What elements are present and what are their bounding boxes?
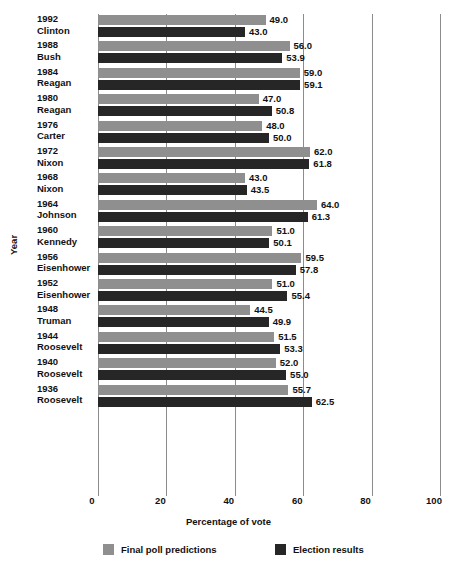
row-label-year: 1944 <box>37 330 95 342</box>
bar-election-result[interactable] <box>98 106 272 116</box>
x-axis-title: Percentage of vote <box>0 516 457 527</box>
bar-poll-prediction[interactable] <box>98 385 288 395</box>
y-axis-title: Year <box>8 235 19 255</box>
bar-election-result[interactable] <box>98 291 287 301</box>
row-label-candidate: Carter <box>37 130 95 142</box>
row-label-candidate: Johnson <box>37 209 95 221</box>
bar-poll-prediction[interactable] <box>98 173 245 183</box>
row-label-year: 1960 <box>37 224 95 236</box>
bar-row: 64.061.3 <box>98 199 440 225</box>
bar-poll-prediction[interactable] <box>98 147 310 157</box>
bar-election-result[interactable] <box>98 317 269 327</box>
bar-value-election-result: 43.5 <box>251 185 270 195</box>
legend-swatch-icon <box>103 544 114 555</box>
bar-row: 59.059.1 <box>98 67 440 93</box>
bar-election-result[interactable] <box>98 159 309 169</box>
bar-value-election-result: 53.9 <box>286 53 305 63</box>
bar-election-result[interactable] <box>98 27 245 37</box>
x-tick-mark-20 <box>166 489 167 496</box>
legend-label: Election results <box>293 544 364 555</box>
x-tick-label-80: 80 <box>360 495 371 506</box>
row-label-1956: 1956Eisenhower <box>37 251 95 274</box>
row-label-year: 1984 <box>37 66 95 78</box>
bar-poll-prediction[interactable] <box>98 253 301 263</box>
bar-election-result[interactable] <box>98 133 269 143</box>
row-label-candidate: Roosevelt <box>37 341 95 353</box>
bar-poll-prediction[interactable] <box>98 305 250 315</box>
bar-row: 51.553.3 <box>98 331 440 357</box>
legend-item-poll-predictions[interactable]: Final poll predictions <box>103 544 217 555</box>
bar-row: 48.050.0 <box>98 120 440 146</box>
bar-value-election-result: 49.9 <box>273 317 292 327</box>
bar-value-poll-prediction: 49.0 <box>270 15 289 25</box>
legend-item-election-results[interactable]: Election results <box>275 544 364 555</box>
row-label-1984: 1984Reagan <box>37 66 95 89</box>
row-label-year: 1956 <box>37 251 95 263</box>
bar-value-poll-prediction: 56.0 <box>294 41 313 51</box>
bar-poll-prediction[interactable] <box>98 226 272 236</box>
row-label-year: 1992 <box>37 13 95 25</box>
y-axis-category-labels: 1992Clinton1988Bush1984Reagan1980Reagan1… <box>37 14 95 489</box>
bar-row: 51.055.4 <box>98 278 440 304</box>
bar-election-result[interactable] <box>98 370 286 380</box>
x-tick-mark-0 <box>98 489 99 496</box>
bar-poll-prediction[interactable] <box>98 121 262 131</box>
bar-value-poll-prediction: 44.5 <box>254 305 273 315</box>
bar-value-poll-prediction: 59.0 <box>304 68 323 78</box>
bar-value-election-result: 55.4 <box>291 291 310 301</box>
bar-election-result[interactable] <box>98 80 300 90</box>
bar-election-result[interactable] <box>98 212 308 222</box>
bar-poll-prediction[interactable] <box>98 41 290 51</box>
row-label-1936: 1936Roosevelt <box>37 383 95 406</box>
row-label-1940: 1940Roosevelt <box>37 356 95 379</box>
bar-row: 62.061.8 <box>98 146 440 172</box>
row-label-candidate: Nixon <box>37 183 95 195</box>
bar-row: 43.043.5 <box>98 172 440 198</box>
bar-election-result[interactable] <box>98 397 312 407</box>
row-label-1948: 1948Truman <box>37 303 95 326</box>
bar-value-election-result: 43.0 <box>249 27 268 37</box>
bar-election-result[interactable] <box>98 344 280 354</box>
row-label-year: 1940 <box>37 356 95 368</box>
row-label-1980: 1980Reagan <box>37 92 95 115</box>
bar-poll-prediction[interactable] <box>98 94 259 104</box>
row-label-1968: 1968Nixon <box>37 171 95 194</box>
row-label-candidate: Reagan <box>37 104 95 116</box>
bar-value-poll-prediction: 64.0 <box>321 200 340 210</box>
x-tick-label-60: 60 <box>292 495 303 506</box>
bar-row: 55.762.5 <box>98 384 440 410</box>
bar-poll-prediction[interactable] <box>98 68 300 78</box>
bar-row: 44.549.9 <box>98 304 440 330</box>
bar-election-result[interactable] <box>98 185 247 195</box>
row-label-year: 1988 <box>37 39 95 51</box>
bar-rows: 49.043.056.053.959.059.147.050.848.050.0… <box>98 14 440 489</box>
bar-row: 52.055.0 <box>98 357 440 383</box>
row-label-year: 1936 <box>37 383 95 395</box>
bar-value-election-result: 61.8 <box>313 159 332 169</box>
bar-value-election-result: 59.1 <box>304 80 323 90</box>
bar-value-poll-prediction: 43.0 <box>249 173 268 183</box>
bar-value-election-result: 50.0 <box>273 133 292 143</box>
gridline-100 <box>440 14 441 495</box>
bar-poll-prediction[interactable] <box>98 358 276 368</box>
bar-election-result[interactable] <box>98 53 282 63</box>
row-label-candidate: Nixon <box>37 157 95 169</box>
bar-row: 56.053.9 <box>98 40 440 66</box>
bar-poll-prediction[interactable] <box>98 279 272 289</box>
x-tick-label-0: 0 <box>89 495 94 506</box>
row-label-1976: 1976Carter <box>37 119 95 142</box>
bar-row: 59.557.8 <box>98 252 440 278</box>
bar-value-election-result: 50.1 <box>273 238 292 248</box>
bar-value-election-result: 61.3 <box>312 212 331 222</box>
row-label-1992: 1992Clinton <box>37 13 95 36</box>
x-tick-mark-80 <box>372 489 373 496</box>
bar-poll-prediction[interactable] <box>98 332 274 342</box>
row-label-year: 1952 <box>37 277 95 289</box>
bar-election-result[interactable] <box>98 265 296 275</box>
bar-poll-prediction[interactable] <box>98 200 317 210</box>
row-label-1960: 1960Kennedy <box>37 224 95 247</box>
row-label-candidate: Roosevelt <box>37 368 95 380</box>
bar-poll-prediction[interactable] <box>98 15 266 25</box>
bar-value-poll-prediction: 48.0 <box>266 121 285 131</box>
bar-election-result[interactable] <box>98 238 269 248</box>
